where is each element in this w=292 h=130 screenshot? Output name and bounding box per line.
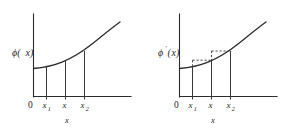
tick-label-x: x — [208, 100, 213, 110]
x-axis-label: x — [210, 115, 215, 125]
tick-label-x1: x — [42, 100, 47, 110]
x-axis-label: x — [64, 115, 69, 125]
figure-panel-right: ϕ ′ ( x ) 0 x 1 x x 2 x — [146, 0, 292, 130]
origin-label: 0 — [28, 100, 33, 110]
tick-label-x2-subscript: 2 — [232, 105, 235, 112]
tick-label-x2: x — [80, 100, 85, 110]
curve-phi — [34, 22, 121, 69]
tick-label-x2-subscript: 2 — [86, 105, 89, 112]
y-axis-label-paren-close: ) — [29, 47, 34, 59]
tick-label-x1-subscript: 1 — [194, 105, 197, 112]
origin-label: 0 — [174, 100, 179, 110]
tick-label-x2: x — [226, 100, 231, 110]
tick-label-x1-subscript: 1 — [48, 105, 51, 112]
y-axis-label-paren-close: ) — [175, 47, 180, 59]
y-axis-label-phi: ϕ( — [12, 47, 21, 59]
figure-panel-left: ϕ( x ) 0 x 1 x x 2 x — [0, 0, 146, 130]
tick-label-x1: x — [188, 100, 193, 110]
tick-label-x: x — [62, 100, 67, 110]
y-axis-label-phi: ϕ — [158, 47, 163, 58]
figure-root: ϕ( x ) 0 x 1 x x 2 x — [0, 0, 292, 130]
